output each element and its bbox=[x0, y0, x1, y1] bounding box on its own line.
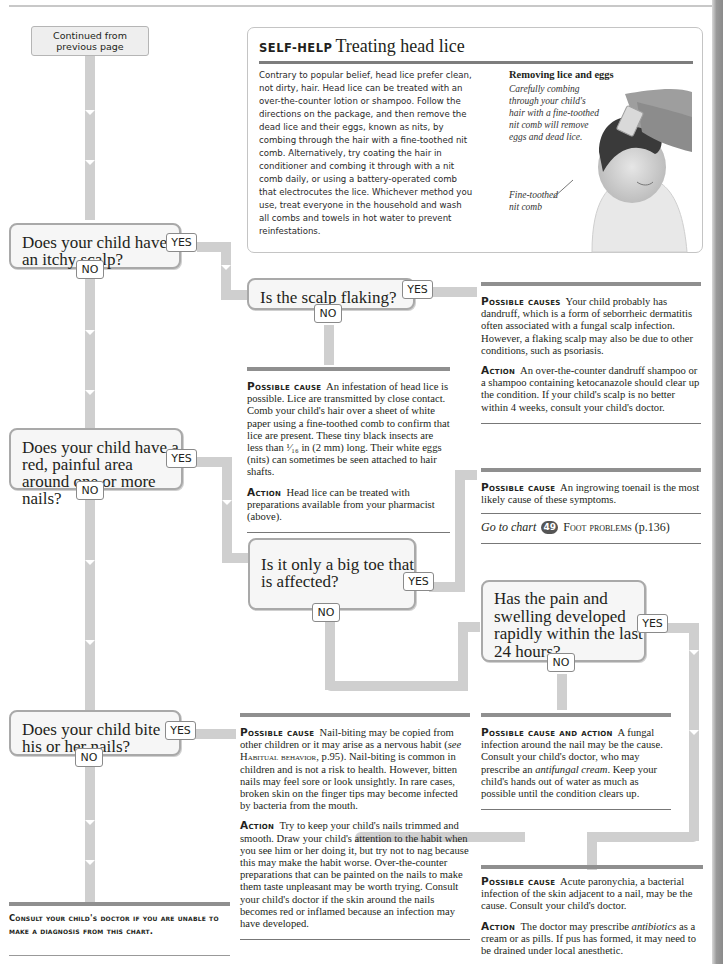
chevron-down-icon bbox=[689, 650, 699, 655]
rule bbox=[247, 367, 450, 371]
connector bbox=[85, 493, 95, 713]
connector bbox=[458, 622, 480, 632]
action-text: The doctor may prescribe bbox=[520, 921, 631, 932]
rule bbox=[9, 955, 230, 956]
chart-number-badge: 49 bbox=[541, 521, 558, 534]
chevron-down-icon bbox=[85, 110, 95, 115]
rule bbox=[481, 865, 703, 869]
self-help-rule bbox=[259, 61, 693, 64]
no-button[interactable]: NO bbox=[75, 748, 103, 767]
self-help-body: Contrary to popular belief, head lice pr… bbox=[259, 69, 473, 238]
chevron-down-icon bbox=[85, 860, 95, 865]
question-text: Has the pain and swelling developed rapi… bbox=[494, 589, 643, 661]
outcome-head-lice: Possible cause An infestation of head li… bbox=[247, 367, 450, 533]
goto-page: (p.136) bbox=[635, 520, 670, 534]
chevron-down-icon bbox=[85, 330, 95, 335]
figure-caption: Carefully combing through your child's h… bbox=[509, 83, 601, 143]
cause-label: Possible causes bbox=[481, 295, 561, 307]
yes-button[interactable]: YES bbox=[165, 721, 196, 740]
action-emphasis: antibiotics bbox=[632, 921, 677, 932]
cause-label: Possible cause bbox=[247, 380, 321, 392]
question-rapid-swelling[interactable]: Has the pain and swelling developed rapi… bbox=[481, 580, 646, 662]
rule bbox=[481, 282, 701, 286]
action-label: Action bbox=[240, 819, 274, 831]
connector bbox=[431, 287, 477, 297]
self-help-kicker: SELF-HELP bbox=[259, 41, 332, 55]
rule bbox=[481, 809, 671, 810]
outcome-paronychia: Possible cause Acute paronychia, a bacte… bbox=[481, 865, 703, 957]
chevron-down-icon bbox=[85, 390, 95, 395]
yes-button[interactable]: YES bbox=[166, 449, 197, 468]
goto-chart-link[interactable]: Go to chart 49 Foot problems (p.136) bbox=[481, 521, 701, 534]
connector bbox=[557, 674, 567, 710]
connector bbox=[222, 457, 232, 563]
outcome-ingrowing-toenail: Possible cause An ingrowing toenail is t… bbox=[481, 468, 701, 544]
connector bbox=[455, 470, 477, 480]
rule bbox=[240, 713, 470, 717]
connector bbox=[324, 325, 334, 365]
action-label: Action bbox=[247, 486, 281, 498]
action-paragraph: Action Try to keep your child's nails tr… bbox=[240, 819, 470, 930]
top-rule bbox=[9, 5, 723, 7]
goto-prefix: Go to chart bbox=[481, 520, 536, 534]
outcome-nail-biting: Possible cause Nail-biting may be copied… bbox=[240, 713, 470, 940]
rule bbox=[481, 543, 701, 544]
action-text: Try to keep your child's nails trimmed a… bbox=[240, 820, 469, 929]
rule bbox=[481, 713, 671, 717]
connector bbox=[590, 832, 699, 842]
rule bbox=[9, 902, 230, 906]
self-help-title: Treating head lice bbox=[335, 36, 464, 56]
rule bbox=[481, 513, 701, 514]
connector bbox=[325, 681, 468, 691]
chevron-down-icon bbox=[85, 820, 95, 825]
connector bbox=[455, 470, 465, 592]
figure-label-comb: Fine-toothed nit comb bbox=[509, 189, 559, 213]
connector bbox=[325, 622, 335, 690]
rule bbox=[240, 939, 470, 940]
cause-paragraph: Possible cause Nail-biting may be copied… bbox=[240, 726, 470, 812]
leader-line-icon bbox=[553, 178, 575, 200]
action-label: Action bbox=[481, 364, 515, 376]
cause-emphasis: antifungal cream bbox=[535, 764, 607, 775]
question-big-toe[interactable]: Is it only a big toe that is affected? bbox=[248, 538, 416, 610]
chevron-down-icon bbox=[221, 265, 231, 270]
connector bbox=[85, 272, 95, 440]
chevron-down-icon bbox=[85, 640, 95, 645]
cause-text: An infestation of head lice is possible.… bbox=[247, 381, 450, 477]
see-label: see bbox=[448, 739, 462, 750]
rule bbox=[247, 532, 450, 533]
self-help-heading: SELF-HELPTreating head lice bbox=[259, 36, 465, 58]
question-text: Is it only a big toe that is affected? bbox=[261, 555, 414, 591]
rule bbox=[481, 468, 701, 472]
cause-label: Possible cause bbox=[240, 726, 314, 738]
yes-button[interactable]: YES bbox=[637, 614, 668, 633]
no-button[interactable]: NO bbox=[547, 653, 575, 672]
yes-button[interactable]: YES bbox=[166, 233, 197, 252]
action-paragraph: Action The doctor may prescribe antibiot… bbox=[481, 920, 703, 958]
yes-button[interactable]: YES bbox=[403, 572, 434, 591]
chevron-down-icon bbox=[222, 500, 232, 505]
no-button[interactable]: NO bbox=[76, 260, 104, 279]
outcome-fungal: Possible cause and action A fungal infec… bbox=[481, 713, 671, 810]
no-button[interactable]: NO bbox=[76, 481, 104, 500]
cause-paragraph: Possible cause An infestation of head li… bbox=[247, 380, 450, 479]
connector bbox=[221, 290, 247, 300]
connector bbox=[85, 762, 95, 902]
page-edge bbox=[712, 0, 723, 964]
cause-paragraph: Possible cause An ingrowing toenail is t… bbox=[481, 481, 701, 506]
cause-label: Possible cause bbox=[481, 481, 555, 493]
action-label: Action bbox=[481, 920, 515, 932]
no-button[interactable]: NO bbox=[312, 603, 340, 622]
figure-title: Removing lice and eggs bbox=[509, 69, 614, 81]
consult-doctor-note: Consult your child's doctor if you are u… bbox=[9, 912, 233, 938]
no-button[interactable]: NO bbox=[314, 304, 342, 323]
chevron-down-icon bbox=[85, 560, 95, 565]
yes-button[interactable]: YES bbox=[402, 280, 433, 299]
chevron-down-icon bbox=[85, 160, 95, 165]
cause-paragraph: Possible cause and action A fungal infec… bbox=[481, 726, 671, 800]
connector bbox=[192, 729, 236, 739]
cause-paragraph: Possible causes Your child probably has … bbox=[481, 295, 701, 357]
continued-from-previous-page[interactable]: Continued from previous page bbox=[31, 26, 149, 56]
cause-label: Possible cause bbox=[481, 875, 555, 887]
cross-reference-link[interactable]: Habitual behavior bbox=[240, 751, 316, 762]
